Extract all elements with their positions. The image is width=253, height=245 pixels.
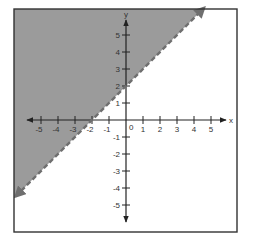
y-tick-label: -3 [113, 167, 121, 176]
x-tick-label: 1 [141, 125, 146, 134]
y-axis-label: y [124, 10, 128, 19]
x-tick-label: 4 [192, 125, 197, 134]
y-tick-label: -1 [113, 133, 121, 142]
y-tick-label: 3 [116, 65, 121, 74]
x-tick-label: -5 [35, 125, 43, 134]
y-tick-label: -2 [113, 150, 121, 159]
y-tick-label: 2 [116, 82, 121, 91]
x-tick-label: -2 [86, 125, 94, 134]
y-tick-label: -5 [113, 201, 121, 210]
y-tick-label: 4 [116, 48, 121, 57]
origin-label: 0 [129, 123, 134, 132]
inequality-graph: -5-4-3-2-112345 -5-4-3-2-112345 0 x y [0, 0, 253, 245]
y-tick-label: 1 [116, 99, 121, 108]
x-tick-label: -3 [69, 125, 77, 134]
x-tick-label: 2 [158, 125, 163, 134]
x-tick-label: 3 [175, 125, 180, 134]
x-tick-label: -4 [52, 125, 60, 134]
y-tick-label: -4 [113, 184, 121, 193]
plot-area: -5-4-3-2-112345 -5-4-3-2-112345 0 x y [0, 0, 237, 232]
x-tick-label: 5 [209, 125, 214, 134]
y-tick-label: 5 [116, 31, 121, 40]
x-axis-label: x [229, 116, 233, 125]
x-tick-label: -1 [103, 125, 111, 134]
